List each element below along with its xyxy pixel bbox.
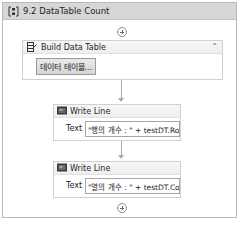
sequence-container: 9.2 DataTable Count Build Data Table ⌃ 데… [2, 2, 237, 218]
collapse-chevrons-icon[interactable]: ⌃ [211, 42, 218, 51]
add-activity-bottom-icon[interactable] [117, 203, 127, 213]
text-field-label-1: Text [66, 124, 82, 133]
sequence-header[interactable]: 9.2 DataTable Count [3, 3, 236, 20]
data-table-button[interactable]: 데이터 테이블... [36, 58, 96, 75]
connector-arrow-icon [118, 155, 124, 159]
text-field-label-2: Text [66, 181, 82, 190]
write-line-icon [57, 106, 67, 116]
write-line-header-1[interactable]: Write Line [54, 105, 180, 118]
build-data-table-header[interactable]: Build Data Table ⌃ [23, 41, 222, 54]
connector-line [121, 141, 122, 156]
build-data-table-icon [27, 42, 37, 52]
write-line-title-1: Write Line [70, 107, 110, 116]
build-data-table-activity[interactable]: Build Data Table ⌃ 데이터 테이블... [22, 40, 223, 80]
build-data-table-title: Build Data Table [41, 43, 106, 52]
write-line-header-2[interactable]: Write Line [54, 162, 180, 175]
write-line-activity-1[interactable]: Write Line Text "행의 개수 : " + testDT.Rows [53, 104, 181, 141]
text-input-1[interactable]: "행의 개수 : " + testDT.Rows [85, 121, 180, 137]
write-line-activity-2[interactable]: Write Line Text "열의 개수 : " + testDT.Colu… [53, 161, 181, 198]
connector-line [121, 80, 122, 99]
write-line-icon [57, 163, 67, 173]
sequence-icon [8, 6, 19, 17]
text-input-2[interactable]: "열의 개수 : " + testDT.Colur [85, 178, 180, 194]
connector-arrow-icon [118, 98, 124, 102]
write-line-title-2: Write Line [70, 164, 110, 173]
sequence-title: 9.2 DataTable Count [23, 6, 109, 16]
add-activity-top-icon[interactable] [117, 27, 127, 37]
